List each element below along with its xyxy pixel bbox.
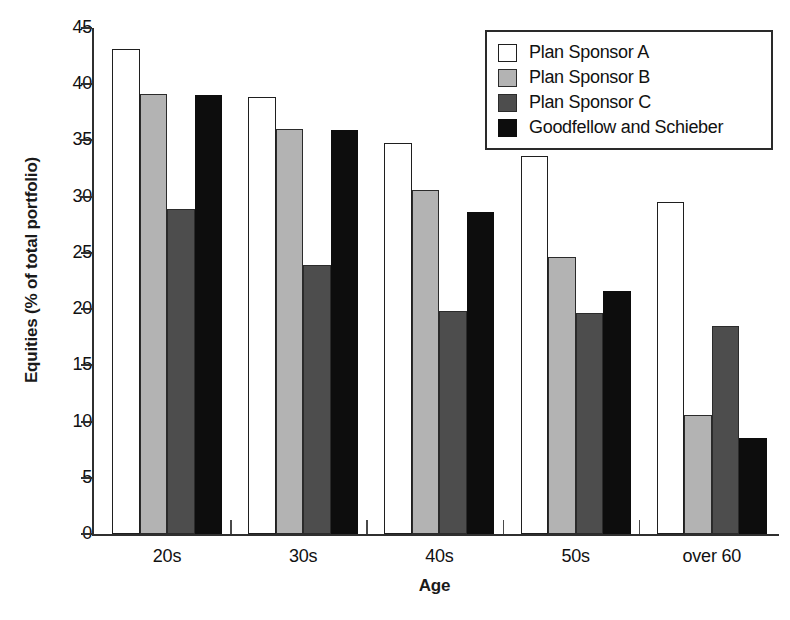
bar-3-3 [603, 291, 631, 534]
bar-2-4 [712, 326, 740, 534]
legend-swatch-icon [498, 119, 517, 137]
y-axis-tick-mark [81, 421, 92, 423]
x-axis-group-separator [503, 520, 505, 534]
bar-0-0 [112, 49, 140, 534]
legend-swatch-icon [498, 44, 517, 62]
legend-swatch-icon [498, 69, 517, 87]
bar-1-2 [412, 190, 440, 534]
x-axis-tick-label: over 60 [642, 546, 782, 567]
x-axis-group-separator [366, 520, 368, 534]
x-axis-tick-label: 40s [369, 546, 509, 567]
y-axis-tick-mark [81, 364, 92, 366]
y-axis: 051015202530354045 [47, 0, 92, 620]
y-axis-tick-mark [81, 252, 92, 254]
legend-item: Plan Sponsor A [498, 40, 757, 65]
legend-item-label: Plan Sponsor B [529, 67, 650, 88]
bar-3-2 [467, 212, 495, 534]
bar-1-0 [140, 94, 168, 534]
bar-0-4 [657, 202, 685, 534]
y-axis-tick-mark [81, 27, 92, 29]
x-axis-tick-label: 20s [97, 546, 237, 567]
y-axis-tick-mark [81, 477, 92, 479]
bar-3-1 [331, 130, 359, 534]
legend-item: Plan Sponsor B [498, 65, 757, 90]
y-axis-tick-mark [81, 533, 92, 535]
x-axis-group-separator [230, 520, 232, 534]
x-axis-line [92, 534, 779, 536]
bar-2-1 [303, 265, 331, 534]
y-axis-tick-mark [81, 196, 92, 198]
y-axis-tick-mark [81, 139, 92, 141]
bar-2-3 [576, 313, 604, 535]
legend-item: Goodfellow and Schieber [498, 115, 757, 140]
legend-item-label: Plan Sponsor A [529, 42, 649, 63]
legend-item-label: Goodfellow and Schieber [529, 117, 723, 138]
bar-1-4 [684, 415, 712, 534]
legend-swatch-icon [498, 94, 517, 112]
legend-item: Plan Sponsor C [498, 90, 757, 115]
bar-1-3 [548, 257, 576, 534]
x-axis-tick-label: 30s [233, 546, 373, 567]
bar-2-2 [439, 311, 467, 534]
y-axis-tick-mark [81, 308, 92, 310]
bar-0-1 [248, 97, 276, 534]
x-axis-tick-label: 50s [506, 546, 646, 567]
bar-3-0 [195, 95, 223, 534]
bar-2-0 [167, 209, 195, 534]
bar-0-3 [521, 156, 549, 534]
x-axis-title: Age [94, 576, 775, 596]
legend: Plan Sponsor APlan Sponsor BPlan Sponsor… [485, 30, 773, 150]
x-axis-group-separator [639, 520, 641, 534]
bar-3-4 [739, 438, 767, 534]
bar-0-2 [384, 143, 412, 534]
legend-item-label: Plan Sponsor C [529, 92, 651, 113]
y-axis-title: Equities (% of total portfolio) [18, 20, 46, 520]
y-axis-tick-mark [81, 83, 92, 85]
bar-chart-figure: Equities (% of total portfolio) 05101520… [0, 0, 790, 620]
bar-1-1 [276, 129, 304, 534]
